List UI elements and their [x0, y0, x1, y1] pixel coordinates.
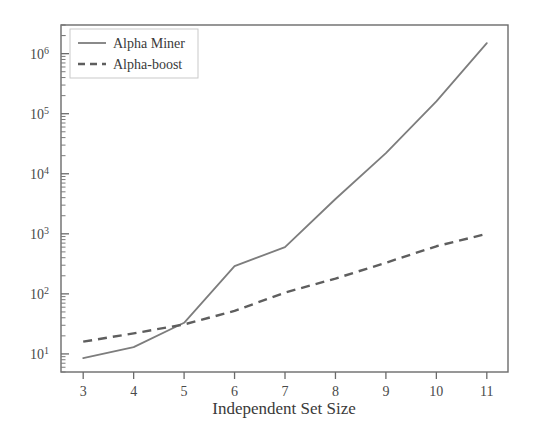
x-tick-label: 5 — [181, 384, 188, 399]
chart-figure: 101102103104105106 34567891011 Independe… — [0, 0, 536, 429]
legend-label-alpha-miner: Alpha Miner — [113, 36, 185, 51]
legend-label-alpha-boost: Alpha-boost — [113, 57, 182, 72]
x-tick-label: 4 — [130, 384, 137, 399]
x-tick-label: 3 — [80, 384, 87, 399]
chart-legend: Alpha Miner Alpha-boost — [70, 29, 198, 78]
x-tick-label: 8 — [332, 384, 339, 399]
x-tick-label: 11 — [480, 384, 493, 399]
x-tick-label: 9 — [382, 384, 389, 399]
line-chart: 101102103104105106 34567891011 Independe… — [0, 0, 536, 429]
x-tick-label: 6 — [231, 384, 238, 399]
x-tick-label: 7 — [282, 384, 289, 399]
x-tick-label: 10 — [429, 384, 443, 399]
x-axis-title: Independent Set Size — [212, 399, 356, 418]
